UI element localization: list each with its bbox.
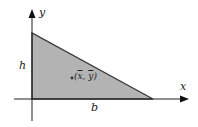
centroid-point xyxy=(71,77,74,80)
triangle-region xyxy=(32,33,153,99)
triangle-diagram xyxy=(0,0,198,127)
base-label: b xyxy=(91,102,98,113)
x-axis-label: x xyxy=(180,81,186,92)
x-axis-arrow-icon xyxy=(180,96,189,103)
height-label: h xyxy=(19,60,26,71)
y-axis-arrow-icon xyxy=(29,9,36,18)
centroid-label: (x, y) xyxy=(74,72,97,81)
diagram-canvas: y x h b (x, y) xyxy=(0,0,198,127)
centroid-label-close: ) xyxy=(93,71,97,81)
y-axis-label: y xyxy=(39,7,45,18)
